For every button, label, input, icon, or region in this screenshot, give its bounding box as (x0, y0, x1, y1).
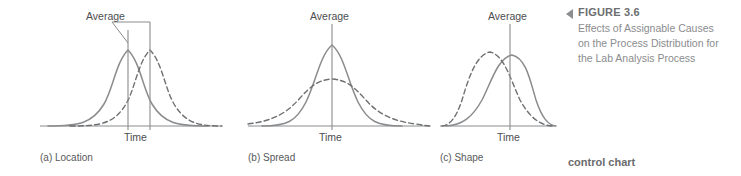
panel-shape-caption: (c) Shape (440, 153, 483, 163)
panel-location-average-label: Average (86, 11, 125, 22)
figure-caption-line-3: the Lab Analysis Process (578, 51, 738, 66)
figure-caption-line-1: Effects of Assignable Causes (578, 21, 738, 36)
panel-spread (248, 24, 430, 130)
panel-shape-average-label: Average (488, 11, 527, 22)
panel-location-time-label: Time (124, 132, 147, 143)
left-triangle-icon (566, 9, 573, 19)
panel-shape-curve-dashed (442, 52, 552, 126)
figure-caption: FIGURE 3.6 Effects of Assignable Causes … (566, 6, 738, 66)
panel-location-caption: (a) Location (40, 153, 93, 163)
running-term-control-chart: control chart (568, 156, 635, 168)
figure-caption-line-2: on the Process Distribution for (578, 36, 738, 51)
panel-spread-caption: (b) Spread (248, 153, 295, 163)
panel-shape-curve-solid (446, 55, 556, 126)
panel-spread-average-label: Average (310, 11, 349, 22)
panel-shape (440, 24, 556, 130)
panel-spread-curve-dashed (248, 79, 430, 126)
figure-3-6: Average Time (a) Location Average Time (… (0, 0, 741, 176)
panel-shape-time-label: Time (497, 132, 520, 143)
panel-location (40, 22, 222, 130)
panel-location-leader-line-1 (112, 22, 128, 43)
figure-caption-head: FIGURE 3.6 (566, 6, 738, 19)
panel-location-curve-dashed (70, 50, 222, 126)
panel-spread-time-label: Time (319, 132, 342, 143)
figure-caption-text: Effects of Assignable Causes on the Proc… (578, 21, 738, 67)
figure-number: FIGURE 3.6 (578, 6, 640, 19)
